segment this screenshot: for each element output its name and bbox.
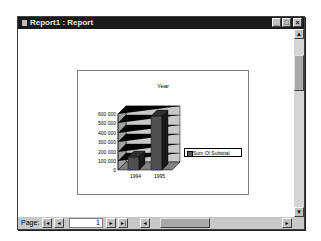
scroll-up-button[interactable]: ▲ <box>294 29 304 39</box>
vertical-scroll-thumb[interactable] <box>294 55 304 91</box>
previous-page-button[interactable]: ◄ <box>54 218 64 228</box>
x-tick: 1994 <box>130 173 141 179</box>
maximize-button[interactable]: □ <box>282 18 291 27</box>
y-tick: 200 000 <box>82 149 116 155</box>
y-tick: 400 000 <box>82 130 116 136</box>
next-page-button[interactable]: ► <box>106 218 116 228</box>
close-button[interactable]: × <box>293 18 302 27</box>
scroll-right-button[interactable]: ► <box>282 218 292 228</box>
legend-label: Sum Of Subtotal <box>193 149 230 158</box>
report-canvas: Year <box>18 29 294 217</box>
chart-legend: Sum Of Subtotal <box>184 148 242 157</box>
minimize-button[interactable]: _ <box>272 18 281 27</box>
x-tick: 1995 <box>154 173 165 179</box>
vertical-scrollbar[interactable]: ▲ ▼ <box>294 29 304 217</box>
record-navigation-bar: Page: |◄ ◄ 1 ► ►| ◄ ► <box>18 217 304 229</box>
chart-frame: Year <box>77 70 249 195</box>
scroll-left-button[interactable]: ◄ <box>140 218 150 228</box>
window-title: Report1 : Report <box>30 17 93 29</box>
y-tick: 0 <box>82 167 116 173</box>
y-tick: 500 000 <box>82 120 116 126</box>
scroll-down-button[interactable]: ▼ <box>294 207 304 217</box>
report-icon <box>22 20 27 26</box>
horizontal-scroll-thumb[interactable] <box>160 218 210 228</box>
resize-grip[interactable] <box>294 217 304 229</box>
y-tick: 100 000 <box>82 158 116 164</box>
last-page-button[interactable]: ►| <box>118 218 128 228</box>
report-window: Report1 : Report _ □ × Year <box>17 16 305 230</box>
page-label: Page: <box>21 217 39 229</box>
y-tick: 600 000 <box>82 111 116 117</box>
y-tick: 300 000 <box>82 139 116 145</box>
page-number-field[interactable]: 1 <box>69 218 103 228</box>
title-bar[interactable]: Report1 : Report _ □ × <box>18 17 304 29</box>
first-page-button[interactable]: |◄ <box>42 218 52 228</box>
